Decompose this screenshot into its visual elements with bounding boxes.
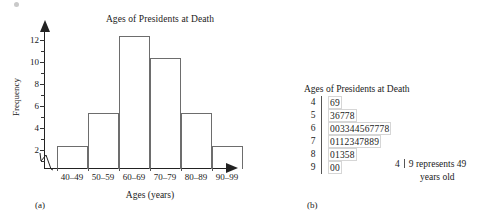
y-tick-minor <box>41 95 45 96</box>
leaf-values: 0112347889 <box>328 135 381 148</box>
histogram-bar-40-49 <box>57 146 88 169</box>
stem-value: 8 <box>307 148 319 161</box>
y-tick-label-6: 6 <box>21 101 39 111</box>
x-tick <box>150 168 151 171</box>
stemplot-key-line-2: years old <box>420 171 455 184</box>
leaf-values: 69 <box>328 96 342 109</box>
stem-value: 7 <box>307 135 319 148</box>
stemplot-key-line-1: 49 represents 49 <box>395 158 466 171</box>
y-tick-minor <box>41 139 45 140</box>
histogram-bar-80-89 <box>181 113 212 169</box>
histogram-bar-60-69 <box>119 36 150 169</box>
y-tick-12 <box>40 40 45 41</box>
stemplot-table: 4 69 5 36778 6 003344567778 7 0112347889… <box>307 96 391 174</box>
stemplot-row: 9 00 <box>307 161 391 174</box>
x-tick <box>119 168 120 171</box>
stem-leaf-divider <box>321 148 322 161</box>
stem-leaf-divider <box>321 161 322 174</box>
stem-value: 5 <box>307 109 319 122</box>
leaf-values: 00 <box>328 161 342 174</box>
y-tick-10 <box>40 62 45 63</box>
leaf-values: 003344567778 <box>328 122 391 135</box>
stem-value: 9 <box>307 161 319 174</box>
y-axis-label: Frequency <box>11 62 21 132</box>
stem-leaf-divider <box>321 135 322 148</box>
y-tick-2 <box>40 150 45 151</box>
x-tick-label-70-79: 70–79 <box>148 172 182 182</box>
x-tick-label-90-99: 90–99 <box>210 172 244 182</box>
x-tick-label-40-49: 40–49 <box>55 172 89 182</box>
key-description: 9 represents 49 <box>409 159 467 169</box>
x-tick-label-60-69: 60–69 <box>117 172 151 182</box>
panel-b-stemplot: Ages of Presidents at Death 4 69 5 36778… <box>262 0 480 224</box>
stemplot-row: 7 0112347889 <box>307 135 391 148</box>
x-axis-label: Ages (years) <box>100 190 200 200</box>
stem-leaf-divider <box>321 122 322 135</box>
stemplot-row: 8 01358 <box>307 148 391 161</box>
key-stem-value: 4 <box>395 159 400 169</box>
histogram-bar-70-79 <box>150 58 181 169</box>
histogram-plot-area: 2 4 6 8 10 12 Frequency 40–49 50–59 60–6… <box>0 0 262 224</box>
y-tick-label-8: 8 <box>21 79 39 89</box>
y-tick-label-2: 2 <box>21 145 39 155</box>
histogram-bar-90-99 <box>212 146 243 169</box>
stemplot-row: 6 003344567778 <box>307 122 391 135</box>
histogram-bar-50-59 <box>88 113 119 169</box>
panel-a-histogram: Ages of Presidents at Death 2 4 6 8 10 <box>0 0 262 224</box>
y-axis-arrow-icon <box>40 20 50 32</box>
y-tick-8 <box>40 84 45 85</box>
stem-leaf-divider <box>321 96 322 109</box>
y-tick-minor <box>41 117 45 118</box>
y-tick-4 <box>40 128 45 129</box>
stemplot-row: 4 69 <box>307 96 391 109</box>
y-tick-minor <box>41 73 45 74</box>
stem-value: 4 <box>307 96 319 109</box>
x-tick <box>212 168 213 171</box>
axis-break-icon <box>38 152 56 172</box>
figure-page: Ages of Presidents at Death 2 4 6 8 10 <box>0 0 480 224</box>
x-tick <box>181 168 182 171</box>
y-tick-6 <box>40 106 45 107</box>
x-tick <box>57 168 58 171</box>
panel-a-caption: (a) <box>35 200 45 210</box>
stemplot-title: Ages of Presidents at Death <box>304 84 410 94</box>
y-tick-label-4: 4 <box>21 123 39 133</box>
y-tick-label-12: 12 <box>21 35 39 45</box>
x-tick-label-50-59: 50–59 <box>86 172 120 182</box>
key-divider-icon <box>404 159 405 168</box>
stem-value: 6 <box>307 122 319 135</box>
leaf-values: 01358 <box>328 148 357 161</box>
x-tick <box>88 168 89 171</box>
y-tick-label-10: 10 <box>21 57 39 67</box>
leaf-values: 36778 <box>328 109 357 122</box>
x-tick-label-80-89: 80–89 <box>179 172 213 182</box>
stemplot-row: 5 36778 <box>307 109 391 122</box>
stem-leaf-divider <box>321 109 322 122</box>
panel-b-caption: (b) <box>307 200 318 210</box>
y-tick-minor <box>41 51 45 52</box>
